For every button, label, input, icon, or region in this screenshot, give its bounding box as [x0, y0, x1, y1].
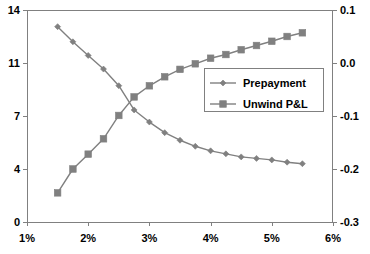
- y-axis-left-tick-label: 4: [14, 163, 21, 175]
- y-axis-left-tick-label: 11: [8, 57, 20, 69]
- data-point-marker: [223, 51, 230, 58]
- data-point-marker: [299, 29, 306, 36]
- data-point-marker: [100, 135, 107, 142]
- y-axis-right-tick-label: -0.2: [340, 163, 359, 175]
- y-axis-left-ticks: [23, 11, 27, 223]
- data-point-marker: [131, 94, 138, 101]
- y-axis-right-tick-labels: -0.3-0.2-0.10.00.1: [340, 4, 359, 228]
- legend-entry-label: Prepayment: [243, 77, 306, 89]
- data-point-marker: [220, 101, 227, 108]
- x-axis-tick-label: 3%: [141, 232, 157, 244]
- data-point-marker: [177, 66, 184, 73]
- data-point-marker: [85, 151, 92, 158]
- x-axis-tick-label: 6%: [325, 232, 341, 244]
- data-point-marker: [192, 60, 199, 67]
- chart-legend: PrepaymentUnwind P&L: [204, 68, 323, 111]
- legend-entry-label: Unwind P&L: [243, 98, 308, 110]
- data-point-marker: [207, 55, 214, 62]
- x-axis-tick-label: 1%: [19, 232, 35, 244]
- data-point-marker: [161, 73, 168, 80]
- x-axis-tick-label: 4%: [203, 232, 219, 244]
- data-point-marker: [269, 38, 276, 45]
- y-axis-right-tick-label: 0.0: [340, 57, 355, 69]
- chart-container: 0471114 -0.3-0.2-0.10.00.1 1%2%3%4%5%6% …: [0, 0, 370, 254]
- data-point-marker: [238, 46, 245, 53]
- y-axis-right-tick-label: -0.1: [340, 110, 359, 122]
- data-point-marker: [284, 33, 291, 40]
- data-point-marker: [146, 82, 153, 89]
- y-axis-right-tick-label: -0.3: [340, 216, 359, 228]
- data-point-marker: [116, 112, 123, 119]
- data-point-marker: [54, 190, 61, 197]
- line-chart: 0471114 -0.3-0.2-0.10.00.1 1%2%3%4%5%6% …: [0, 0, 370, 254]
- data-point-marker: [253, 42, 260, 49]
- y-axis-left-tick-label: 14: [8, 4, 21, 16]
- x-axis-tick-label: 2%: [80, 232, 96, 244]
- y-axis-left-tick-label: 0: [14, 216, 20, 228]
- y-axis-left-tick-labels: 0471114: [8, 4, 21, 228]
- x-axis-tick-labels: 1%2%3%4%5%6%: [19, 232, 341, 244]
- x-axis-tick-label: 5%: [264, 232, 280, 244]
- data-point-marker: [70, 166, 77, 173]
- y-axis-right-ticks: [333, 11, 337, 223]
- y-axis-right-tick-label: 0.1: [340, 4, 355, 16]
- y-axis-left-tick-label: 7: [14, 110, 20, 122]
